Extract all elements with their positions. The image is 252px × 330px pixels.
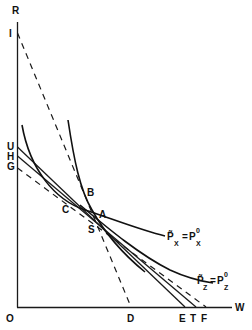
economics-diagram: R I U H G O D E T F W B A C S P̃ X = P X… [0,0,252,330]
label-D: D [127,313,134,324]
label-O: O [6,313,14,324]
label-R: R [12,5,20,16]
label-E: E [179,313,186,324]
label-A: A [99,209,106,220]
label-F: F [201,313,207,324]
svg-text:=: = [210,275,216,286]
svg-text:P̃: P̃ [167,230,174,242]
svg-text:X: X [174,240,179,247]
svg-text:0: 0 [224,271,228,278]
svg-text:=: = [182,231,188,242]
label-T: T [190,313,196,324]
svg-text:Z: Z [224,284,229,291]
svg-text:X: X [196,240,201,247]
label-C: C [62,204,69,215]
pz-curve-label: P̃ Z = P Z 0 [197,271,229,291]
label-W: W [235,302,245,313]
svg-text:0: 0 [196,227,200,234]
px-curve-label: P̃ X = P X 0 [167,227,201,247]
svg-text:P: P [189,231,196,242]
label-B: B [87,187,94,198]
svg-text:Z: Z [203,284,208,291]
svg-text:P: P [217,275,224,286]
label-G: G [7,161,15,172]
label-I: I [9,28,12,39]
label-S: S [88,224,95,235]
